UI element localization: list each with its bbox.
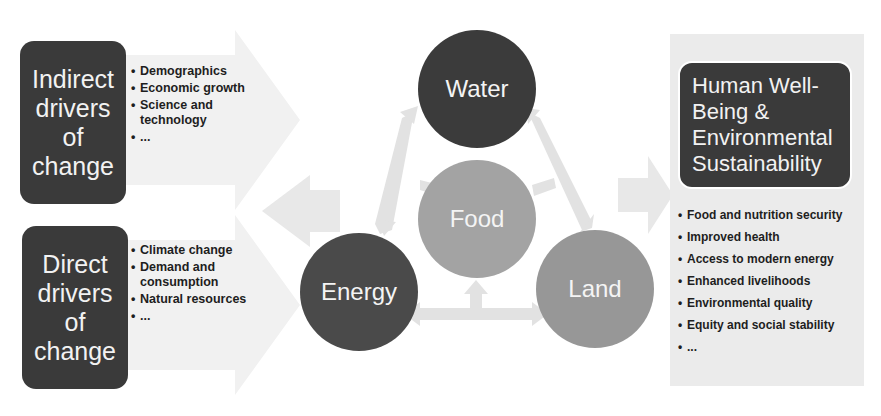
water-land-arrow	[528, 112, 592, 230]
indirect-title-line: change	[20, 152, 126, 181]
energy-label: Energy	[321, 278, 397, 306]
indirect-title-line: Indirect	[20, 65, 126, 94]
water-circle: Water	[418, 30, 536, 148]
list-item: Science and technology	[131, 98, 251, 128]
direct-title-line: Direct	[22, 250, 128, 279]
outcomes-title-box: Human Well- Being & Environmental Sustai…	[678, 61, 852, 189]
feedback-arrow	[262, 175, 340, 247]
indirect-drivers-box: Indirect drivers of change	[20, 41, 126, 204]
list-item: Economic growth	[131, 81, 251, 96]
list-item: ...	[131, 130, 251, 145]
list-item: Demand and consumption	[131, 260, 251, 290]
list-item: Equity and social stability	[678, 315, 868, 335]
outcome-arrow	[618, 156, 673, 234]
direct-title-line: change	[22, 337, 128, 366]
list-item: Access to modern energy	[678, 249, 868, 269]
direct-drivers-box: Direct drivers of change	[22, 226, 128, 389]
outcomes-list: Food and nutrition security Improved hea…	[678, 205, 868, 359]
indirect-title-line: drivers	[20, 94, 126, 123]
land-food-arrow	[532, 178, 556, 196]
list-item: Food and nutrition security	[678, 205, 868, 225]
list-item: Natural resources	[131, 292, 251, 307]
list-item: Improved health	[678, 227, 868, 247]
water-label: Water	[445, 75, 508, 103]
list-item: Environmental quality	[678, 293, 868, 313]
land-label: Land	[568, 275, 621, 303]
direct-drivers-list: Climate change Demand and consumption Na…	[131, 243, 251, 326]
food-circle: Food	[418, 160, 536, 278]
water-energy-arrow	[375, 112, 414, 234]
land-circle: Land	[536, 230, 654, 348]
outcomes-title-line: Human Well-	[692, 73, 850, 99]
outcomes-title-line: Being &	[692, 99, 850, 125]
list-item: ...	[678, 337, 868, 357]
outcomes-title-line: Environmental	[692, 125, 850, 151]
energy-circle: Energy	[300, 233, 418, 351]
indirect-title-line: of	[20, 123, 126, 152]
outcomes-title-line: Sustainability	[692, 151, 850, 177]
indirect-drivers-list: Demographics Economic growth Science and…	[131, 64, 251, 147]
direct-title-line: drivers	[22, 279, 128, 308]
food-label: Food	[450, 205, 505, 233]
list-item: ...	[131, 309, 251, 324]
list-item: Enhanced livelihoods	[678, 271, 868, 291]
direct-title-line: of	[22, 308, 128, 337]
list-item: Climate change	[131, 243, 251, 258]
list-item: Demographics	[131, 64, 251, 79]
